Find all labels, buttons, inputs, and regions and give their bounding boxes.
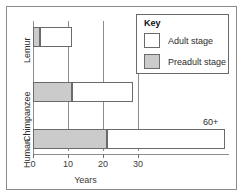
x-tick-20 <box>103 154 104 158</box>
x-tick-10 <box>68 154 69 158</box>
bar-row-chimpanzee <box>33 82 133 102</box>
bar-row-lemur <box>33 27 72 47</box>
chart-figure: 60+ Lemur Chimpanzee Human 0 10 20 30 Ye… <box>0 0 243 196</box>
category-label-lemur: Lemur <box>22 37 32 63</box>
x-axis-label: Years <box>33 175 138 185</box>
bar-segment-lemur-adult <box>40 27 72 47</box>
legend-label-preadult: Preadult stage <box>168 57 226 67</box>
legend-box: Key Adult stage Preadult stage <box>136 14 229 74</box>
bar-segment-human-adult <box>107 129 225 149</box>
legend-label-adult: Adult stage <box>168 36 213 46</box>
bar-segment-chimpanzee-preadult <box>33 82 72 102</box>
annotation-60-plus: 60+ <box>203 117 218 127</box>
bar-row-human <box>33 129 225 149</box>
legend-swatch-preadult-icon <box>144 54 160 69</box>
x-tick-0 <box>33 154 34 158</box>
x-axis-line <box>33 154 229 155</box>
bar-segment-chimpanzee-adult <box>72 82 133 102</box>
legend-title: Key <box>144 18 161 28</box>
x-tick-label-10: 10 <box>63 159 73 169</box>
category-label-chimpanzee: Chimpanzee <box>22 91 32 142</box>
x-tick-label-0: 0 <box>30 159 35 169</box>
x-tick-label-30: 30 <box>133 159 143 169</box>
bar-segment-human-preadult <box>33 129 107 149</box>
x-tick-30 <box>138 154 139 158</box>
x-tick-label-20: 20 <box>98 159 108 169</box>
bar-segment-lemur-preadult <box>33 27 40 47</box>
legend-swatch-adult-icon <box>144 33 160 48</box>
